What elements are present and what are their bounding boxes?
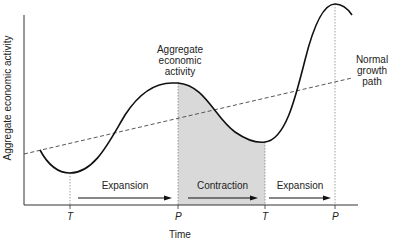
curve-label-line-2: economic xyxy=(140,55,220,66)
curve-label: Aggregate economic activity xyxy=(140,44,220,77)
tick-label-t2: T xyxy=(262,211,268,222)
curve-label-line-3: activity xyxy=(140,66,220,77)
curve-label-line-1: Aggregate xyxy=(140,44,220,55)
trend-label-line-3: path xyxy=(350,76,393,87)
phase-label-expansion-1: Expansion xyxy=(90,180,160,191)
business-cycle-diagram xyxy=(0,0,393,245)
tick-label-p1: P xyxy=(175,211,182,222)
trend-label-line-1: Normal xyxy=(350,54,393,65)
trend-label: Normal growth path xyxy=(350,54,393,87)
arrowhead-3 xyxy=(323,196,331,201)
y-axis-label: Aggregate economic activity xyxy=(2,51,13,161)
arrowhead-1 xyxy=(164,196,172,201)
trend-label-line-2: growth xyxy=(350,65,393,76)
x-axis-label: Time xyxy=(160,229,200,240)
phase-label-contraction: Contraction xyxy=(185,180,260,191)
tick-label-p2: P xyxy=(332,211,339,222)
tick-label-t1: T xyxy=(67,211,73,222)
phase-label-expansion-2: Expansion xyxy=(268,180,332,191)
